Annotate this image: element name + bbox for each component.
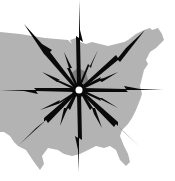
center-dot-icon	[76, 87, 83, 94]
radiating-bolts-map-icon	[0, 0, 175, 181]
illustration	[0, 0, 175, 181]
us-map-silhouette	[0, 28, 164, 170]
